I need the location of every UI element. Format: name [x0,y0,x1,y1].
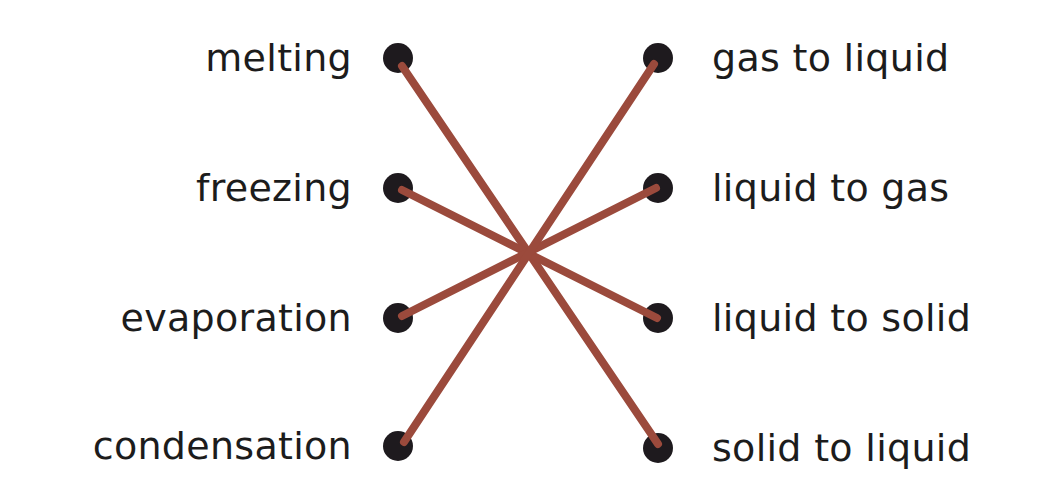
left-dot-1[interactable] [383,173,413,203]
left-dot-2[interactable] [383,303,413,333]
matching-diagram [0,0,1056,501]
connection-lines [402,64,658,444]
